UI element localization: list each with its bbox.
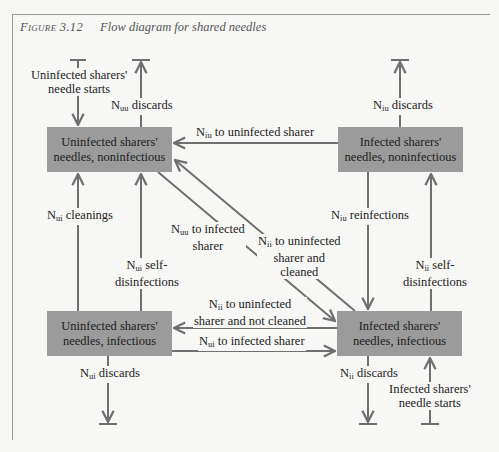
- label-line: cleaned: [258, 265, 341, 279]
- flow-text: to uninfected sharer: [212, 125, 314, 139]
- flow-symbol: N: [373, 98, 382, 112]
- label-nuu-to-infected: Nuu to infected sharer: [170, 222, 246, 253]
- flow-text: discards: [389, 98, 433, 112]
- flow-subscript: iu: [340, 213, 347, 223]
- label-line: needle starts: [389, 396, 471, 410]
- label-nii-self-disinfections: Nii self- disinfections: [402, 258, 468, 289]
- flow-symbol: N: [111, 98, 120, 112]
- flow-subscript: ui: [208, 339, 215, 349]
- label-nui-discards: Nui discards: [79, 366, 141, 383]
- flow-text: to infected: [189, 222, 245, 236]
- flow-symbol: N: [196, 125, 205, 139]
- label-niu-to-uninfected: Niu to uninfected sharer: [195, 125, 315, 142]
- box-infected-infectious: Infected sharers' needles, infectious: [337, 311, 462, 356]
- flow-text: discards: [96, 366, 140, 380]
- flow-subscript: iu: [205, 130, 212, 140]
- flow-text: reinfections: [347, 208, 409, 222]
- flow-symbol: N: [331, 208, 340, 222]
- label-line: sharer and not cleaned: [194, 314, 306, 328]
- label-nii-not-cleaned: Nii to uninfected sharer and not cleaned: [193, 297, 307, 328]
- flow-text: self-: [142, 258, 167, 272]
- flow-subscript: iu: [382, 103, 389, 113]
- flow-subscript: ui: [56, 213, 63, 223]
- flow-subscript: ui: [89, 371, 96, 381]
- label-nuu-discards: Nuu discards: [110, 98, 174, 115]
- box-uninfected-infectious: Uninfected sharers' needles, infectious: [47, 311, 172, 356]
- label-line: sharer and: [258, 251, 341, 265]
- flow-subscript: uu: [180, 227, 189, 237]
- flow-symbol: N: [199, 334, 208, 348]
- label-nui-to-infected: Nui to infected sharer: [198, 334, 306, 351]
- flow-symbol: N: [80, 366, 89, 380]
- box-infected-noninfectious: Infected sharers' needles, noninfectious: [338, 127, 463, 172]
- label-nui-self-disinfections: Nui self- disinfections: [114, 258, 180, 289]
- flow-text: self-: [429, 258, 454, 272]
- flow-text: to infected sharer: [215, 334, 305, 348]
- label-line: needle starts: [31, 82, 127, 96]
- flow-symbol: N: [47, 208, 56, 222]
- label-infected-starts: Infected sharers' needle starts: [388, 382, 472, 410]
- label-line: disinfections: [115, 275, 179, 289]
- flow-text: to uninfected: [223, 297, 292, 311]
- flow-text: discards: [354, 366, 398, 380]
- label-line: sharer: [171, 239, 245, 253]
- label-niu-discards: Niu discards: [372, 98, 434, 115]
- label-nii-discards: Nii discards: [339, 366, 399, 383]
- flow-symbol: N: [340, 366, 349, 380]
- box-uninfected-noninfectious: Uninfected sharers' needles, noninfectio…: [47, 127, 172, 172]
- label-niu-reinfections: Niu reinfections: [330, 208, 410, 225]
- flow-subscript: uu: [120, 103, 129, 113]
- flow-text: cleanings: [63, 208, 113, 222]
- label-line: Uninfected sharers': [31, 68, 127, 82]
- flow-symbol: N: [209, 297, 218, 311]
- flow-symbol: N: [258, 234, 267, 248]
- label-uninfected-starts: Uninfected sharers' needle starts: [30, 68, 128, 96]
- label-nii-cleaned: Nii to uninfected sharer and cleaned: [257, 234, 342, 279]
- label-nui-cleanings: Nui cleanings: [46, 208, 114, 225]
- flow-symbol: N: [171, 222, 180, 236]
- label-line: disinfections: [403, 275, 467, 289]
- flow-text: to uninfected: [272, 234, 341, 248]
- label-line: Infected sharers': [389, 382, 471, 396]
- flow-text: discards: [129, 98, 173, 112]
